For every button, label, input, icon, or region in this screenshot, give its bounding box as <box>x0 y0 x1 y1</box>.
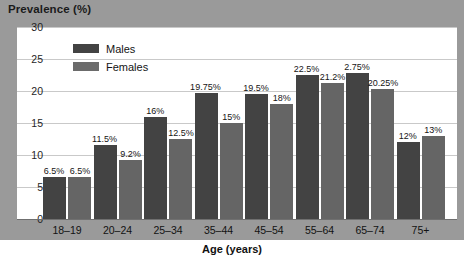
bar-females: 12.5% <box>169 139 192 219</box>
bar-group: 12%13% <box>397 27 445 219</box>
bar-value-label: 6.5% <box>70 166 91 176</box>
bar-males: 19.5% <box>245 94 268 219</box>
legend-swatch-males-icon <box>73 44 99 53</box>
bar-group: 19.5%18% <box>245 27 293 219</box>
bar-value-label: 11.5% <box>92 134 117 144</box>
prevalence-bar-chart-figure: Prevalence (%) 051015202530 6.5%6.5%11.5… <box>0 0 464 266</box>
bar-males: 11.5% <box>94 145 117 219</box>
bar-males: 2.75% <box>346 73 369 219</box>
bar-group: 2.75%20.25% <box>346 27 394 219</box>
bar-males: 12% <box>397 142 420 219</box>
bar-value-label: 19.75% <box>190 82 221 92</box>
plot-area: 051015202530 6.5%6.5%11.5%9.2%16%12.5%19… <box>17 27 457 219</box>
x-axis-tick-label: 75+ <box>391 224 451 236</box>
bar-females: 18% <box>270 104 293 219</box>
bar-value-label: 22.5% <box>294 64 320 74</box>
bar-value-label: 13% <box>424 125 442 135</box>
bar-value-label: 16% <box>146 106 164 116</box>
bar-group: 16%12.5% <box>144 27 192 219</box>
chart-legend: Males Females <box>73 41 148 77</box>
bar-value-label: 12.5% <box>168 128 194 138</box>
bar-value-label: 9.2% <box>120 149 141 159</box>
bar-males: 22.5% <box>296 75 319 219</box>
bar-value-label: 15% <box>222 112 240 122</box>
legend-item-females: Females <box>73 59 148 74</box>
bar-females: 13% <box>422 136 445 219</box>
legend-item-males: Males <box>73 41 148 56</box>
bar-group: 19.75%15% <box>195 27 243 219</box>
x-axis-title: Age (years) <box>0 243 464 255</box>
bar-females: 9.2% <box>119 160 142 219</box>
bar-value-label: 18% <box>273 93 291 103</box>
bar-females: 15% <box>220 123 243 219</box>
legend-label-females: Females <box>106 61 148 73</box>
bar-females: 20.25% <box>371 89 394 219</box>
bar-value-label: 12% <box>399 131 417 141</box>
bar-value-label: 20.25% <box>368 78 399 88</box>
bar-males: 16% <box>144 117 167 219</box>
x-axis-line <box>17 219 457 220</box>
bar-males: 6.5% <box>43 177 66 219</box>
bar-males: 19.75% <box>195 93 218 219</box>
legend-swatch-females-icon <box>73 62 99 71</box>
chart-header-strip: Prevalence (%) <box>0 0 464 22</box>
y-axis-title: Prevalence (%) <box>8 3 91 15</box>
bar-females: 21.2% <box>321 83 344 219</box>
bar-value-label: 21.2% <box>320 72 346 82</box>
bar-value-label: 6.5% <box>44 166 65 176</box>
legend-label-males: Males <box>106 43 135 55</box>
bar-females: 6.5% <box>68 177 91 219</box>
bar-group: 22.5%21.2% <box>296 27 344 219</box>
bar-value-label: 2.75% <box>344 62 370 72</box>
bar-value-label: 19.5% <box>243 83 269 93</box>
